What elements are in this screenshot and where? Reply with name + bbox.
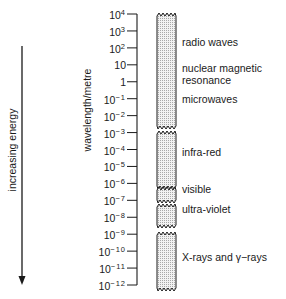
tick-label: 102 <box>109 41 126 55</box>
tick-label: 10−12 <box>99 278 126 292</box>
tick-label: 10−1 <box>104 92 126 106</box>
spectrum-bars <box>157 13 176 291</box>
axis-title: wavelength/metre <box>81 69 93 152</box>
band-label: radio waves <box>182 36 238 48</box>
tick-label: 103 <box>109 24 126 38</box>
tick-label: 10−4 <box>104 143 126 157</box>
tick-label: 10−9 <box>104 227 126 241</box>
band-label: visible <box>182 183 211 195</box>
tick-label: 10−8 <box>104 210 126 224</box>
tick-label: 10−6 <box>104 176 126 190</box>
bar-infra-red <box>157 131 176 189</box>
energy-arrow-label: increasing energy <box>6 109 18 192</box>
tick-label: 10−7 <box>104 193 126 207</box>
electromagnetic-spectrum-diagram: increasing energy wavelength/metre 10410… <box>0 0 286 299</box>
tick-label: 104 <box>109 7 126 21</box>
bar-visible <box>157 187 176 203</box>
tick-label: 10−10 <box>99 244 126 258</box>
bar-radio-microwave <box>157 13 176 129</box>
band-label: resonance <box>182 74 231 86</box>
tick-label: 10−11 <box>99 261 126 275</box>
tick-label: 10−3 <box>104 126 126 140</box>
band-label: microwaves <box>182 93 237 105</box>
wavelength-axis <box>127 14 137 285</box>
band-label: nuclear magnetic <box>182 62 262 74</box>
tick-label: 10−5 <box>104 159 126 173</box>
bar-x-gamma-rays <box>157 232 176 291</box>
tick-label: 1 <box>120 76 126 88</box>
bar-ultra-violet <box>157 204 176 228</box>
tick-label: 10−2 <box>104 109 126 123</box>
band-label: infra-red <box>182 146 221 158</box>
tick-label: 10 <box>114 59 126 71</box>
energy-arrow-icon <box>19 46 26 285</box>
band-label: ultra-violet <box>182 203 230 215</box>
band-label: X-rays and γ−rays <box>182 251 267 263</box>
